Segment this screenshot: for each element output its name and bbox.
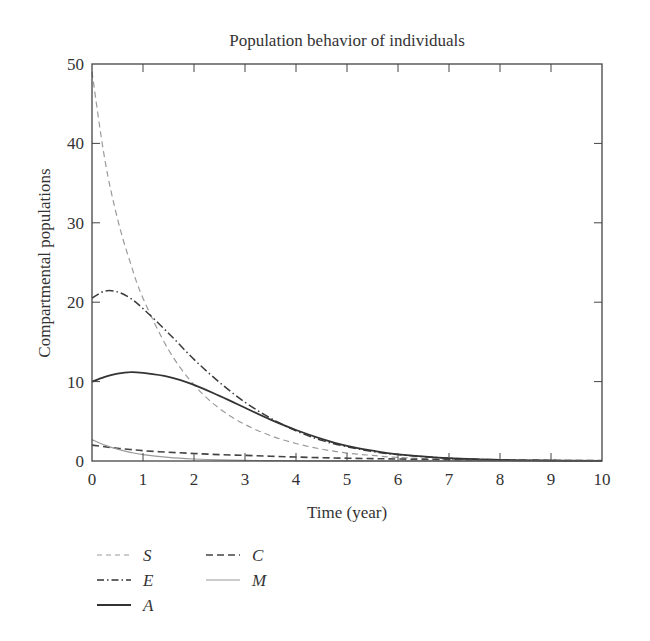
svg-text:M: M	[251, 571, 267, 590]
y-tick-label: 20	[67, 293, 84, 312]
svg-text:A: A	[142, 596, 154, 615]
plot-curves	[92, 72, 602, 461]
x-tick-label: 9	[547, 470, 556, 489]
series-a-line	[92, 372, 602, 461]
series-s-line	[92, 72, 602, 461]
legend-item-s: S	[97, 546, 152, 565]
x-tick-label: 5	[343, 470, 352, 489]
x-tick-label: 7	[445, 470, 454, 489]
chart: Population behavior of individuals 01234…	[0, 0, 650, 641]
x-axis-ticks: 012345678910	[88, 64, 611, 489]
legend-item-a: A	[97, 596, 154, 615]
y-tick-label: 30	[67, 214, 84, 233]
legend: S E A C M	[97, 546, 267, 615]
y-tick-label: 50	[67, 55, 84, 74]
legend-item-m: M	[206, 571, 267, 590]
legend-item-c: C	[206, 546, 264, 565]
svg-text:C: C	[252, 546, 264, 565]
x-tick-label: 3	[241, 470, 250, 489]
series-e-line	[92, 291, 602, 461]
y-tick-label: 40	[67, 134, 84, 153]
x-tick-label: 1	[139, 470, 148, 489]
svg-text:E: E	[142, 571, 154, 590]
x-tick-label: 8	[496, 470, 505, 489]
y-tick-label: 10	[67, 373, 84, 392]
x-tick-label: 0	[88, 470, 97, 489]
x-tick-label: 10	[594, 470, 611, 489]
y-axis-ticks: 01020304050	[67, 55, 602, 471]
x-tick-label: 2	[190, 470, 199, 489]
svg-text:S: S	[143, 546, 152, 565]
legend-item-e: E	[97, 571, 154, 590]
x-tick-label: 4	[292, 470, 301, 489]
plot-frame	[92, 64, 602, 461]
chart-title: Population behavior of individuals	[229, 31, 465, 50]
x-axis-label: Time (year)	[307, 503, 387, 522]
y-axis-label: Compartmental populations	[35, 168, 54, 357]
y-tick-label: 0	[76, 452, 85, 471]
x-tick-label: 6	[394, 470, 403, 489]
